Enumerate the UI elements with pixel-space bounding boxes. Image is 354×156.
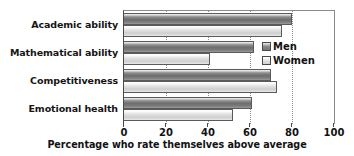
bar-men-mathematical-ability	[124, 41, 254, 53]
bar-men-academic-ability	[124, 13, 292, 25]
category-axis-labels: Academic ability Mathematical ability Co…	[0, 0, 120, 125]
category-label-emotional-health: Emotional health	[28, 103, 118, 114]
legend-item-men: Men	[262, 40, 336, 53]
category-label-mathematical-ability: Mathematical ability	[10, 47, 118, 58]
bar-women-mathematical-ability	[124, 53, 210, 65]
legend: Men Women	[262, 40, 336, 68]
bar-women-academic-ability	[124, 25, 282, 37]
x-axis-title: Percentage who rate themselves above ave…	[0, 139, 354, 150]
legend-swatch-men-icon	[262, 42, 271, 51]
legend-label-women: Women	[273, 55, 315, 66]
tick-label-60: 60	[243, 127, 257, 138]
category-label-academic-ability: Academic ability	[31, 19, 118, 30]
tick-label-80: 80	[285, 127, 299, 138]
legend-label-men: Men	[273, 41, 297, 52]
legend-swatch-women-icon	[262, 56, 271, 65]
legend-item-women: Women	[262, 54, 336, 67]
tick-label-100: 100	[324, 127, 345, 138]
bar-women-competitiveness	[124, 81, 277, 93]
horizontal-bar-chart: Academic ability Mathematical ability Co…	[0, 0, 354, 156]
bar-men-competitiveness	[124, 69, 271, 81]
tick-label-20: 20	[159, 127, 173, 138]
bar-women-emotional-health	[124, 109, 233, 121]
tick-label-0: 0	[121, 127, 128, 138]
tick-label-40: 40	[201, 127, 215, 138]
bar-men-emotional-health	[124, 97, 252, 109]
category-label-competitiveness: Competitiveness	[30, 75, 118, 86]
